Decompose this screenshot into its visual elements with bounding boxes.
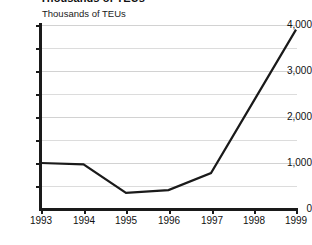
plot-area — [41, 25, 297, 209]
y-tick-label-0: 0 — [278, 204, 312, 214]
gridline-1500 — [41, 140, 297, 141]
y-tick-label-2000: 2,000 — [278, 112, 312, 122]
x-tick-label-1997: 1997 — [192, 216, 232, 226]
gridline-500 — [41, 186, 297, 187]
y-tick-4000 — [36, 25, 41, 27]
x-tick-label-1994: 1994 — [64, 216, 104, 226]
gridline-2000 — [41, 117, 297, 118]
x-tick-label-1995: 1995 — [106, 216, 146, 226]
x-tick-1997 — [212, 209, 214, 214]
y-tick-3500 — [36, 48, 41, 50]
gridline-3500 — [41, 48, 297, 49]
gridline-2500 — [41, 94, 297, 95]
x-tick-1994 — [84, 209, 86, 214]
x-tick-label-1998: 1998 — [234, 216, 274, 226]
y-tick-label-1000: 1,000 — [278, 158, 312, 168]
y-tick-2000 — [36, 117, 41, 119]
gridline-1000 — [41, 163, 297, 164]
x-tick-1999 — [296, 209, 298, 214]
y-tick-1000 — [36, 163, 41, 165]
y-tick-3000 — [36, 71, 41, 73]
y-axis-unit-label: Thousands of TEUs — [42, 8, 126, 19]
x-tick-1995 — [126, 209, 128, 214]
y-tick-label-3000: 3,000 — [278, 66, 312, 76]
x-tick-1998 — [254, 209, 256, 214]
y-tick-500 — [36, 186, 41, 188]
x-tick-1996 — [169, 209, 171, 214]
y-tick-2500 — [36, 94, 41, 96]
x-tick-label-1999: 1999 — [276, 216, 312, 226]
gridline-4000 — [41, 25, 297, 26]
y-tick-1500 — [36, 140, 41, 142]
x-tick-label-1993: 1993 — [21, 216, 61, 226]
gridline-3000 — [41, 71, 297, 72]
x-tick-label-1996: 1996 — [149, 216, 189, 226]
y-tick-label-4000: 4,000 — [278, 20, 312, 30]
x-tick-1993 — [41, 209, 43, 214]
chart-title: Thousands of TEUs — [40, 0, 145, 4]
chart-figure: Thousands of TEUs Thousands of TEUs 4,00… — [0, 0, 312, 245]
